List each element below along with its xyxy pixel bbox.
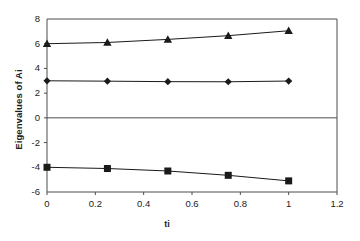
axis-frame bbox=[47, 19, 337, 192]
chart-container: Eigenvalues of Ai 8 6 4 2 0 -2 -4 -6 0 0… bbox=[0, 0, 360, 241]
data-series-group bbox=[43, 27, 293, 185]
plot-area bbox=[0, 0, 360, 241]
